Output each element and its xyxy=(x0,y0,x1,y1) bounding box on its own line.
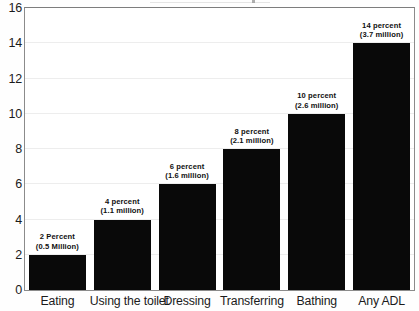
bar-group: 14 percent(3.7 million) xyxy=(353,8,410,290)
bar-value-label: 10 percent(2.6 million) xyxy=(295,91,339,109)
y-axis-tick-label: 2 xyxy=(0,249,22,262)
bar xyxy=(94,220,151,291)
bar-count-label: (0.5 Million) xyxy=(36,242,79,251)
bar-count-label: (2.1 million) xyxy=(230,136,274,145)
bar-percent-label: 2 Percent xyxy=(40,232,75,241)
y-axis: 0246810121416 xyxy=(0,0,22,311)
bar xyxy=(288,114,345,290)
bar-count-label: (2.6 million) xyxy=(295,101,339,110)
y-axis-tick-label: 0 xyxy=(0,284,22,297)
y-axis-tick-label: 4 xyxy=(0,213,22,226)
bar-group: 4 percent(1.1 million) xyxy=(94,8,151,290)
x-axis-category-label: Dressing xyxy=(155,293,220,309)
x-axis-category-label: Eating xyxy=(25,293,90,309)
bar-count-label: (3.7 million) xyxy=(360,30,404,39)
bar-value-label: 8 percent(2.1 million) xyxy=(230,127,274,145)
x-axis-category-label: Bathing xyxy=(284,293,349,309)
bar xyxy=(29,255,86,290)
plot-area: 2 Percent(0.5 Million)4 percent(1.1 mill… xyxy=(24,7,415,291)
y-axis-tick-label: 10 xyxy=(0,108,22,121)
bar-group: 6 percent(1.6 million) xyxy=(159,8,216,290)
bar-count-label: (1.6 million) xyxy=(165,171,209,180)
y-axis-tick-label: 16 xyxy=(0,2,22,15)
y-axis-tick-label: 14 xyxy=(0,37,22,50)
bar-percent-label: 10 percent xyxy=(297,91,336,100)
bar-group: 2 Percent(0.5 Million) xyxy=(29,8,86,290)
bar-percent-label: 6 percent xyxy=(170,162,205,171)
x-axis: EatingUsing the toiletDressingTransferri… xyxy=(24,293,415,311)
bars-container: 2 Percent(0.5 Million)4 percent(1.1 mill… xyxy=(25,8,414,290)
bar-percent-label: 14 percent xyxy=(362,21,401,30)
x-axis-category-label: Transferring xyxy=(220,293,285,309)
bar-value-label: 2 Percent(0.5 Million) xyxy=(36,232,79,250)
bar xyxy=(353,43,410,290)
bar-value-label: 6 percent(1.6 million) xyxy=(165,162,209,180)
bar xyxy=(159,184,216,290)
bar-group: 8 percent(2.1 million) xyxy=(223,8,280,290)
scan-artifact-dot xyxy=(252,0,255,3)
bar-chart: 0246810121416 2 Percent(0.5 Million)4 pe… xyxy=(0,0,419,311)
y-axis-tick-label: 6 xyxy=(0,178,22,191)
x-axis-category-label: Any ADL xyxy=(349,293,414,309)
bar xyxy=(223,149,280,290)
bar-group: 10 percent(2.6 million) xyxy=(288,8,345,290)
y-axis-tick-label: 12 xyxy=(0,72,22,85)
bar-value-label: 14 percent(3.7 million) xyxy=(360,21,404,39)
x-axis-category-label: Using the toilet xyxy=(90,293,155,309)
bar-percent-label: 4 percent xyxy=(105,197,140,206)
bar-percent-label: 8 percent xyxy=(235,127,270,136)
bar-count-label: (1.1 million) xyxy=(100,206,144,215)
y-axis-tick-label: 8 xyxy=(0,143,22,156)
bar-value-label: 4 percent(1.1 million) xyxy=(100,197,144,215)
